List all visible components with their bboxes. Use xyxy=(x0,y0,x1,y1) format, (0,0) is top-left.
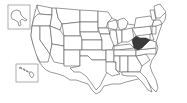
state-alabama[interactable] xyxy=(120,56,128,72)
state-nebraska[interactable] xyxy=(80,32,102,40)
hawaii-inset xyxy=(16,64,38,82)
state-tennessee[interactable] xyxy=(114,50,136,56)
state-colorado[interactable] xyxy=(64,36,82,50)
state-wyoming[interactable] xyxy=(62,22,80,36)
alaska-inset xyxy=(8,5,30,29)
us-map: United States map xyxy=(0,0,187,103)
state-iowa[interactable] xyxy=(98,28,110,34)
state-arkansas[interactable] xyxy=(106,50,114,62)
hawaii-inset-frame xyxy=(16,64,38,82)
state-wisconsin[interactable] xyxy=(108,20,118,30)
state-south-dakota[interactable] xyxy=(80,22,98,32)
state-north-dakota[interactable] xyxy=(80,10,98,22)
state-new-york[interactable] xyxy=(134,16,154,28)
state-kansas[interactable] xyxy=(82,40,102,50)
state-new-jersey[interactable] xyxy=(152,26,156,34)
contiguous-us xyxy=(31,4,166,94)
state-new-mexico[interactable] xyxy=(64,50,80,66)
